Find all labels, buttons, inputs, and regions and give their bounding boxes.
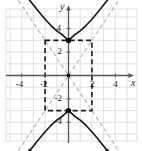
hyperbola-figure: x y -4 -2 2 4 4 2 -2 -4 [0,0,142,151]
y-tick-label-neg4: -4 [55,117,63,126]
x-tick-label-pos2: 2 [90,80,95,89]
y-tick-label-pos4: 4 [57,24,62,33]
x-axis-label: x [131,78,135,88]
x-tick-label-pos4: 4 [113,80,118,89]
x-tick-label-neg2: -2 [40,80,48,89]
y-tick-label-neg2: -2 [55,94,63,103]
x-tick-label-neg4: -4 [16,80,24,89]
y-tick-label-pos2: 2 [58,47,63,56]
plot-canvas [0,0,142,151]
y-axis-label: y [60,2,64,12]
